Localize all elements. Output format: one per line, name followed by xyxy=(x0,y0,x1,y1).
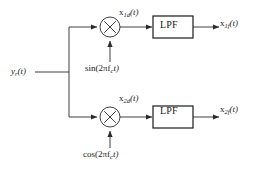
output-1-tail: (t) xyxy=(230,18,239,28)
carrier-1-fn: sin xyxy=(85,63,96,73)
output-2-tail: (t) xyxy=(230,104,239,114)
mixer-2-output-sub: 2d xyxy=(124,97,131,104)
output-2-sub: 2f xyxy=(225,108,230,115)
input-signal-tail: (t) xyxy=(18,66,27,76)
carrier-1-open: (2πf xyxy=(96,63,111,73)
output-1-label: x1f(t) xyxy=(220,19,238,28)
carrier-2-close: t) xyxy=(113,149,119,159)
lpf-2-label: LPF xyxy=(160,105,178,116)
carrier-2-fn: cos xyxy=(83,149,95,159)
block-diagram-canvas: yr(t) x1d(t) x2d(t) x1f(t) x2f(t) sin(2π… xyxy=(0,0,259,172)
output-1-sub: 1f xyxy=(225,22,230,29)
mixer-2-output-label: x2d(t) xyxy=(119,94,139,103)
carrier-2-open: (2πf xyxy=(95,149,110,159)
carrier-1-close: t) xyxy=(113,63,119,73)
carrier-1-label: sin(2πfct) xyxy=(85,64,119,73)
carrier-2-label: cos(2πfct) xyxy=(83,150,118,159)
input-signal-label: yr(t) xyxy=(11,67,26,76)
mixer-1-output-label: x1d(t) xyxy=(119,8,139,17)
output-1-main: x xyxy=(220,18,225,28)
input-signal-sub: r xyxy=(15,70,18,77)
output-2-main: x xyxy=(220,104,225,114)
mixer-1-output-main: x xyxy=(119,7,124,17)
mixer-2-output-main: x xyxy=(119,93,124,103)
mixer-1-output-sub: 1d xyxy=(124,11,131,18)
carrier-2-sub: c xyxy=(110,153,113,160)
output-2-label: x2f(t) xyxy=(220,105,238,114)
lpf-1-label: LPF xyxy=(160,19,178,30)
mixer-2-output-tail: (t) xyxy=(130,93,139,103)
mixer-1-output-tail: (t) xyxy=(130,7,139,17)
